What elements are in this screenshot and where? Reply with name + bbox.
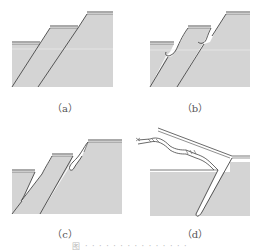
panel-a-label: （a） <box>35 100 95 115</box>
panel-a-diagram <box>0 0 130 100</box>
panel-c <box>0 126 130 226</box>
panel-d <box>130 126 260 226</box>
panel-b <box>130 0 260 100</box>
panel-b-diagram <box>130 0 260 100</box>
panel-c-diagram <box>0 126 130 226</box>
panel-d-diagram <box>130 126 260 226</box>
panel-b-label: （b） <box>165 100 225 115</box>
panel-d-label: （d） <box>165 226 225 241</box>
figure-caption: 图 · · · · · · · · · · · · · · · <box>0 240 260 251</box>
panel-c-label: （c） <box>35 226 95 241</box>
panel-a <box>0 0 130 100</box>
